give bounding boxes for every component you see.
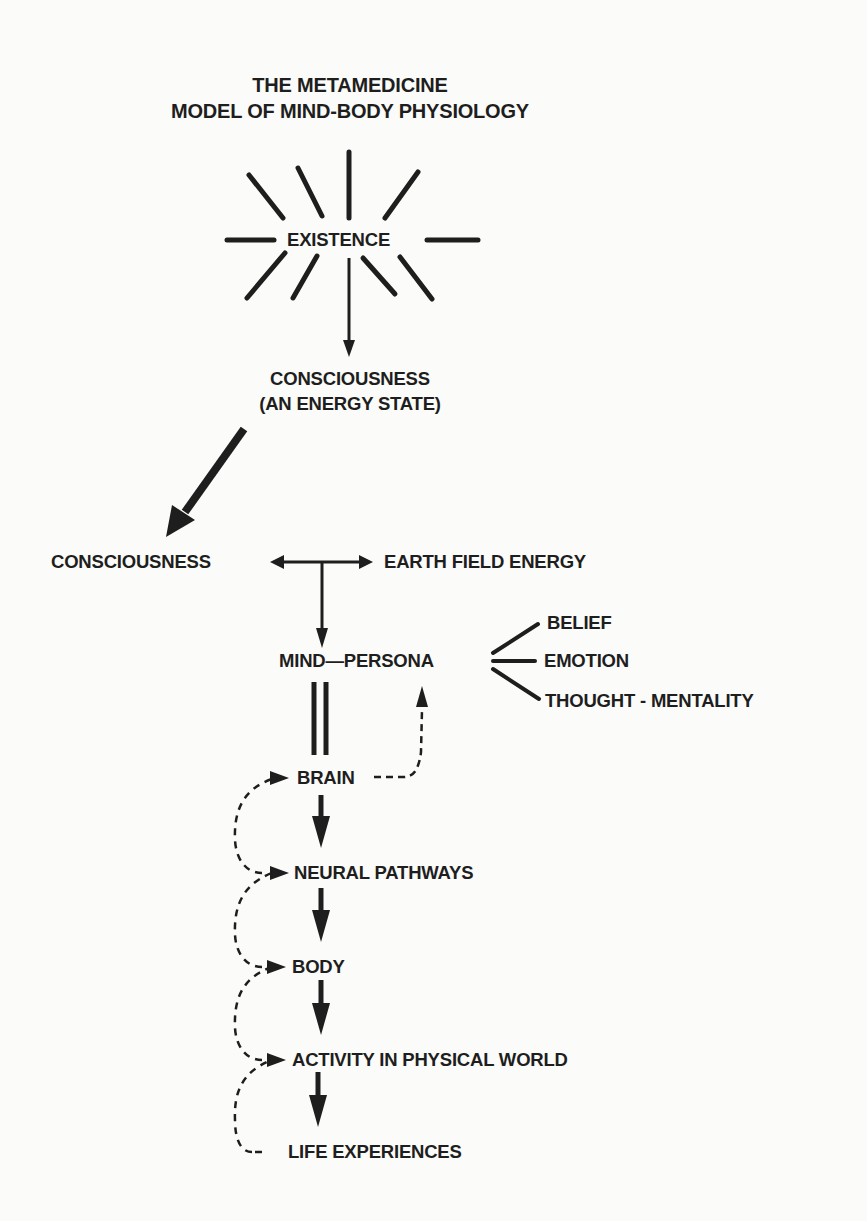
node-belief: BELIEF bbox=[547, 614, 612, 633]
node-body: BODY bbox=[292, 958, 345, 977]
arrow-consciousness-earth-field bbox=[270, 555, 373, 648]
dashed-feedback-loops bbox=[235, 779, 272, 1152]
mind-persona-branches bbox=[493, 624, 539, 699]
node-life-experiences: LIFE EXPERIENCES bbox=[288, 1143, 462, 1162]
node-neural-pathways: NEURAL PATHWAYS bbox=[294, 864, 473, 883]
node-consciousness-energy-state-line-2: (AN ENERGY STATE) bbox=[200, 395, 500, 414]
node-earth-field-energy: EARTH FIELD ENERGY bbox=[384, 553, 586, 572]
node-thought-mentality: THOUGHT - MENTALITY bbox=[545, 692, 754, 711]
arrow-energy-state-to-consciousness bbox=[166, 429, 244, 537]
double-line-mind-to-brain bbox=[314, 682, 326, 755]
arrow-activity-to-life bbox=[309, 1072, 327, 1127]
arrow-body-to-activity bbox=[312, 980, 330, 1035]
arrow-neural-to-body bbox=[312, 888, 330, 942]
node-emotion: EMOTION bbox=[544, 652, 629, 671]
arrow-existence-to-consciousness bbox=[343, 258, 355, 357]
node-mind-persona: MIND—PERSONA bbox=[279, 652, 434, 671]
dashed-arrow-brain-to-mind bbox=[374, 686, 428, 777]
feedback-arrowheads bbox=[267, 771, 289, 1067]
node-consciousness-energy-state-line-1: CONSCIOUSNESS bbox=[200, 370, 500, 389]
diagram-connectors bbox=[0, 0, 867, 1221]
node-existence: EXISTENCE bbox=[287, 231, 390, 250]
node-brain: BRAIN bbox=[297, 769, 355, 788]
node-consciousness: CONSCIOUSNESS bbox=[51, 553, 211, 572]
arrow-brain-to-neural bbox=[312, 795, 330, 848]
node-activity-physical-world: ACTIVITY IN PHYSICAL WORLD bbox=[292, 1051, 568, 1070]
existence-starburst-icon bbox=[227, 152, 478, 299]
